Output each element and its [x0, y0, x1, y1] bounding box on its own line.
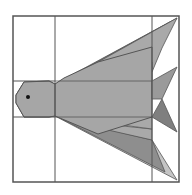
fish-crease-pattern-diagram [0, 0, 192, 195]
eye-dot [26, 95, 30, 99]
fish-head [16, 81, 55, 117]
diagram-svg [0, 0, 192, 195]
